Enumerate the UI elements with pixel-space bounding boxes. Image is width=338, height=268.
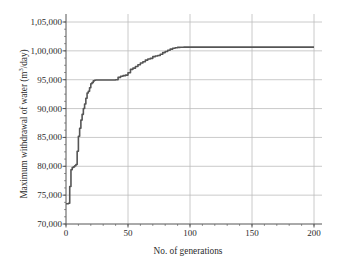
major-tick-marks — [63, 22, 315, 228]
chart-canvas — [66, 22, 314, 224]
gridlines — [66, 14, 322, 224]
x-axis-tick-labels: 050100150200 — [66, 228, 314, 240]
y-tick-label: 1,00,000 — [10, 46, 62, 56]
y-tick-label: 75,000 — [10, 190, 62, 200]
y-tick-label: 1,05,000 — [10, 17, 62, 27]
x-tick-label: 100 — [170, 228, 210, 238]
x-tick-label: 50 — [108, 228, 148, 238]
y-tick-label: 95,000 — [10, 75, 62, 85]
y-tick-label: 90,000 — [10, 104, 62, 114]
x-tick-label: 150 — [232, 228, 272, 238]
axis-lines — [66, 14, 322, 224]
y-axis-tick-labels: 70,00075,00080,00085,00090,00095,0001,00… — [6, 22, 62, 224]
chart-figure: Maximum withdrawal of water (m3/day) 70,… — [0, 0, 338, 268]
x-tick-label: 0 — [46, 228, 86, 238]
plot-area — [66, 22, 314, 224]
y-tick-label: 80,000 — [10, 161, 62, 171]
y-tick-label: 85,000 — [10, 132, 62, 142]
x-tick-label: 200 — [294, 228, 334, 238]
x-axis-title: No. of generations — [63, 246, 313, 256]
